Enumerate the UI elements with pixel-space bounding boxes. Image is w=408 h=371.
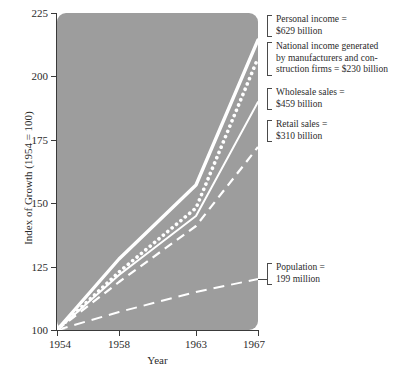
annotation-retail-sales-text: Retail sales = $310 billion [276, 119, 405, 142]
plot-area [57, 13, 258, 330]
x-tick-label-1963: 1963 [185, 338, 207, 350]
x-axis-title: Year [57, 354, 258, 366]
annotation-personal-income: Personal income = $629 billion [267, 14, 405, 37]
growth-index-chart: 225 200 175 150 125 100 1954 1958 1963 1… [0, 0, 408, 371]
annotation-national-income-text: National income generated by manufacture… [276, 41, 407, 76]
x-tick-1963 [196, 331, 197, 336]
x-tick-label-1967: 1967 [243, 338, 265, 350]
y-tick-200 [51, 76, 57, 77]
brace-icon [267, 42, 272, 76]
x-tick-label-1954: 1954 [49, 338, 71, 350]
annotation-population-text: Population = 199 million [276, 262, 405, 285]
series-canvas [57, 13, 258, 330]
y-tick-label-225: 225 [14, 7, 48, 19]
y-tick-150 [51, 203, 57, 204]
brace-icon [267, 15, 272, 37]
y-axis-title: Index of Growth (1954 = 100) [22, 78, 34, 278]
x-tick-label-1958: 1958 [108, 338, 130, 350]
annotation-population: Population = 199 million [267, 262, 405, 285]
y-tick-125 [51, 267, 57, 268]
brace-icon [267, 120, 272, 142]
annotation-wholesale-sales-text: Wholesale sales = $459 billion [276, 87, 405, 110]
series-line-national-income [57, 58, 258, 330]
y-tick-175 [51, 140, 57, 141]
annotation-personal-income-text: Personal income = $629 billion [276, 14, 405, 37]
annotation-national-income: National income generated by manufacture… [267, 41, 407, 76]
y-tick-label-100: 100 [14, 324, 48, 336]
x-tick-1967 [258, 331, 259, 336]
leader-line-population [258, 279, 267, 280]
x-tick-1954 [57, 331, 58, 336]
brace-icon [267, 88, 272, 110]
y-axis-line [56, 13, 57, 331]
brace-icon [267, 263, 272, 285]
annotation-retail-sales: Retail sales = $310 billion [267, 119, 405, 142]
x-axis-line [56, 330, 259, 331]
annotation-wholesale-sales: Wholesale sales = $459 billion [267, 87, 405, 110]
x-tick-1958 [119, 331, 120, 336]
y-tick-225 [51, 13, 57, 14]
